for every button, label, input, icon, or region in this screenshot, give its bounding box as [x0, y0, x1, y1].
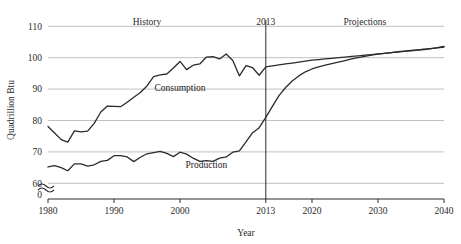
- divider-year-label: 2013: [256, 17, 275, 27]
- history-label: History: [133, 17, 162, 27]
- y-axis-title: Quadrillion Btu: [6, 80, 16, 140]
- y-tick-label-100: 100: [28, 53, 43, 63]
- x-tick-label-2040: 2040: [435, 206, 454, 216]
- x-tick-label-1980: 1980: [39, 206, 58, 216]
- consumption-line: [48, 46, 444, 142]
- x-axis-title: Year: [237, 228, 255, 238]
- x-tick-label-2020: 2020: [303, 206, 322, 216]
- y-tick-label-70: 70: [33, 147, 43, 157]
- x-tick-group: 1980199020002013202020302040: [39, 199, 454, 216]
- x-tick-label-2000: 2000: [171, 206, 190, 216]
- projections-label: Projections: [343, 17, 386, 27]
- y-tick-group: 110100908070600: [28, 22, 43, 200]
- y-tick-label-0: 0: [37, 190, 42, 200]
- x-tick-label-1990: 1990: [105, 206, 124, 216]
- energy-chart: 1980199020002013202020302040 11010090807…: [0, 0, 461, 244]
- chart-canvas: 1980199020002013202020302040 11010090807…: [0, 0, 461, 244]
- x-tick-label-2030: 2030: [369, 206, 388, 216]
- x-tick-label-2013: 2013: [256, 206, 275, 216]
- production-label: Production: [186, 160, 228, 170]
- y-tick-label-110: 110: [28, 22, 42, 32]
- y-tick-label-90: 90: [33, 84, 43, 94]
- annotation-group: History2013ProjectionsConsumptionProduct…: [133, 17, 387, 170]
- y-tick-label-80: 80: [33, 116, 43, 126]
- consumption-label: Consumption: [154, 83, 205, 93]
